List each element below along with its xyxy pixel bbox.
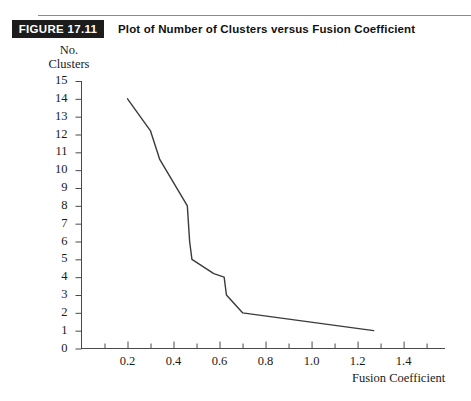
cluster-fusion-line-chart <box>0 0 471 401</box>
chart-axes <box>81 81 445 349</box>
figure-page: FIGURE 17.11 Plot of Number of Clusters … <box>0 0 471 401</box>
cluster-count-line <box>128 99 374 331</box>
y-axis-ticks <box>76 82 82 350</box>
x-axis-ticks <box>105 342 427 349</box>
data-series-group <box>128 99 374 331</box>
